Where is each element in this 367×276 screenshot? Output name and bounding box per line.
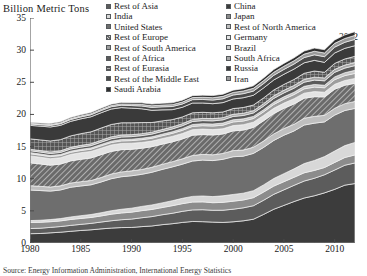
y-tick-label: 35	[4, 13, 30, 23]
stacked-area-svg	[30, 18, 355, 243]
y-tick-label: 10	[4, 174, 30, 184]
x-tick-label: 2005	[274, 244, 293, 254]
plot-area: 05101520253035 1980198519901995200020052…	[30, 18, 355, 243]
legend-swatch-icon	[106, 4, 111, 9]
x-tick-label: 1980	[21, 244, 40, 254]
chart-container: Billion Metric Tons Rest of AsiaIndiaUni…	[0, 0, 367, 276]
legend-item[interactable]: Rest of Asia	[106, 1, 214, 11]
y-tick-label: 5	[4, 206, 30, 216]
x-tick-label: 2010	[325, 244, 344, 254]
legend-label: Rest of Asia	[114, 1, 158, 11]
legend-label: China	[234, 1, 256, 11]
y-tick-label: 30	[4, 45, 30, 55]
x-tick-label: 1985	[71, 244, 90, 254]
y-tick-label: 20	[4, 109, 30, 119]
legend-swatch-icon	[226, 4, 231, 9]
y-tick-label: 15	[4, 142, 30, 152]
source-caption: Source: Energy Information Administratio…	[3, 266, 231, 275]
legend-item[interactable]: China	[226, 1, 346, 11]
x-tick-label: 1995	[173, 244, 192, 254]
x-tick-label: 2000	[224, 244, 243, 254]
x-tick-label: 1990	[122, 244, 141, 254]
y-tick-label: 25	[4, 77, 30, 87]
